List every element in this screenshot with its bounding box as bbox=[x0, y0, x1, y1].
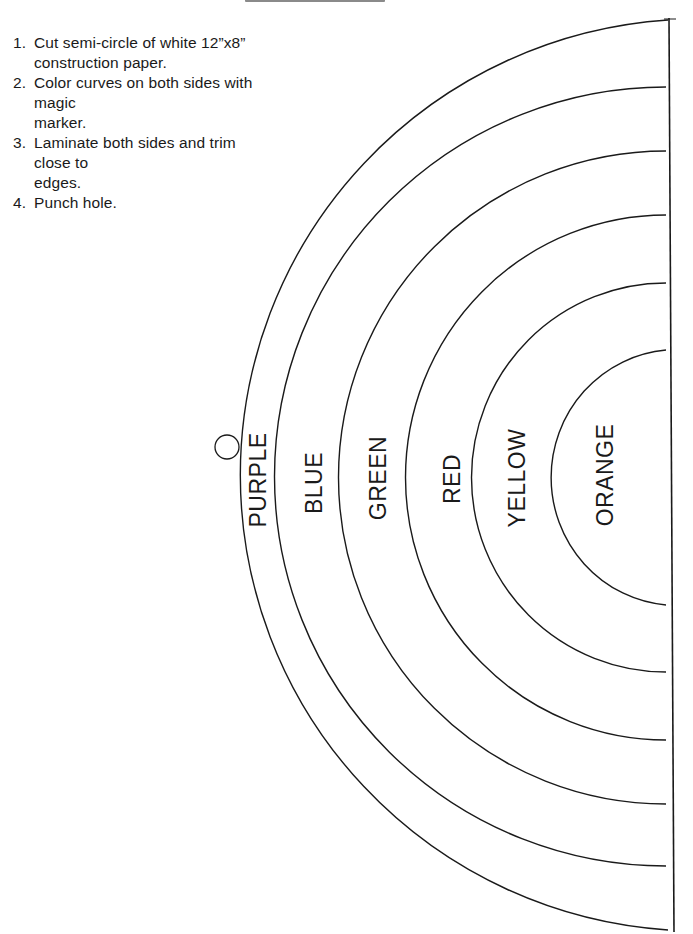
band-label-red: RED bbox=[439, 454, 465, 504]
band-label-blue: BLUE bbox=[301, 452, 327, 514]
band-label-green: GREEN bbox=[365, 436, 391, 520]
diameter-edge bbox=[669, 18, 674, 932]
band-label-purple: PURPLE bbox=[245, 432, 271, 527]
arc-yellow bbox=[472, 283, 667, 672]
punch-hole-circle bbox=[215, 435, 239, 459]
band-label-orange: ORANGE bbox=[592, 424, 618, 527]
rainbow-semicircle-diagram: PURPLE BLUE GREEN RED YELLOW ORANGE bbox=[0, 0, 693, 934]
band-label-yellow: YELLOW bbox=[504, 429, 530, 528]
